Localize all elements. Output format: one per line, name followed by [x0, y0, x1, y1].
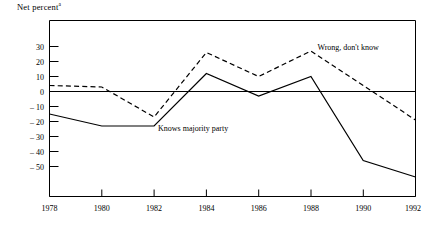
y-axis-title: Net percenta	[17, 2, 61, 12]
x-axis-ticks	[50, 190, 416, 197]
x-tick-label-3: 1984	[198, 204, 214, 213]
series-annotation-wrong-dont-know: Wrong, don't know	[317, 43, 379, 52]
x-tick-label-2: 1982	[146, 204, 162, 213]
y-axis-title-text: Net percent	[17, 2, 59, 12]
y-axis-ticks	[50, 47, 59, 167]
x-tick-label-1: 1980	[94, 204, 110, 213]
y-tick-label-4: – 10	[29, 103, 44, 112]
y-tick-label-5: – 20	[29, 118, 44, 127]
y-tick-label-3: 0	[40, 88, 44, 97]
series-line-wrong-dont-know	[50, 51, 416, 120]
y-tick-label-2: 10	[36, 73, 44, 82]
x-tick-label-6: 1990	[355, 204, 371, 213]
series-line-knows-majority-party	[50, 74, 416, 178]
y-tick-label-0: 30	[36, 43, 44, 52]
y-tick-label-8: – 50	[29, 163, 44, 172]
series-annotation-knows-majority-party: Knows majority party	[158, 124, 228, 133]
y-axis-tick-labels: 30 20 10 0 – 10 – 20 – 30 – 40 – 50	[29, 43, 44, 172]
x-tick-label-0: 1978	[42, 204, 58, 213]
y-axis-title-footnote-marker: a	[59, 1, 62, 7]
net-percent-line-chart: Net percenta 30 20 10 0 – 10	[0, 0, 423, 225]
x-tick-label-4: 1986	[251, 204, 267, 213]
y-tick-label-1: 20	[36, 58, 44, 67]
y-tick-label-6: – 30	[29, 133, 44, 142]
x-axis-tick-labels: 1978 1980 1982 1984 1986 1988 1990 1992	[42, 204, 422, 213]
x-tick-label-7: 1992	[405, 204, 421, 213]
y-tick-label-7: – 40	[29, 148, 44, 157]
chart-plot-area: 30 20 10 0 – 10 – 20 – 30 – 40 – 50 1978…	[0, 0, 423, 225]
x-tick-label-5: 1988	[303, 204, 319, 213]
